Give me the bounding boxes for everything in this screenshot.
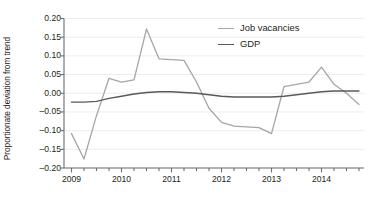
legend-label-gdp: GDP	[240, 39, 260, 49]
series-line-gdp	[72, 91, 360, 102]
chart-legend: Job vacancies GDP	[218, 20, 368, 52]
legend-item-job-vacancies[interactable]: Job vacancies	[218, 20, 368, 36]
legend-swatch-job-vacancies	[218, 28, 234, 29]
legend-item-gdp[interactable]: GDP	[218, 36, 368, 52]
legend-label-job-vacancies: Job vacancies	[240, 23, 299, 33]
chart-container: Proportionate deviation from trend 0.200…	[0, 0, 377, 197]
legend-swatch-gdp	[218, 44, 234, 45]
